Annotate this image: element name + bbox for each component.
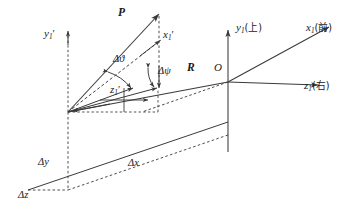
point-p-text: P xyxy=(118,6,125,18)
frame-unprimed-axes xyxy=(142,27,329,152)
point-p-label: P xyxy=(118,7,125,19)
axis-label-y1: y1(上) xyxy=(236,22,262,35)
axis-x1-prime-arrow xyxy=(140,41,160,57)
delta-x-text: Δx xyxy=(128,157,139,168)
origin-o-text: O xyxy=(214,61,222,73)
delta-z-label: Δz xyxy=(18,190,28,201)
angle-theta-label: Δϑ xyxy=(113,54,124,65)
vector-r-label: R xyxy=(187,62,195,74)
axis-y1-prime-mark: ′ xyxy=(53,28,55,39)
axis-x1-prime-mark: ′ xyxy=(172,29,174,40)
figure-canvas: P R O x1(前) y1(上) z1(右) x1′ y1′ z1′ Δϑ Δ… xyxy=(0,0,351,210)
delta-x-label: Δx xyxy=(128,158,139,169)
delta-x-dashed-line xyxy=(68,135,228,190)
angle-psi-label: Δψ xyxy=(158,66,171,77)
axis-label-z1: z1(右) xyxy=(304,80,329,93)
angle-psi-text: Δψ xyxy=(158,65,171,76)
axis-z1-negative-dashed xyxy=(142,82,228,112)
angle-psi-arc xyxy=(148,68,154,87)
axis-z1-prime-mark: ′ xyxy=(118,84,120,95)
axis-x1-annotation: (前) xyxy=(315,22,333,33)
axis-label-y1-prime: y1′ xyxy=(44,28,55,41)
vector-r-text: R xyxy=(187,61,195,73)
delta-construction-lines xyxy=(28,82,228,190)
angle-theta-text: Δϑ xyxy=(113,53,124,64)
delta-z-text: Δz xyxy=(18,189,28,200)
axis-z1-annotation: (右) xyxy=(312,80,330,91)
origin-o-label: O xyxy=(214,62,222,73)
axis-label-x1: x1(前) xyxy=(306,22,332,35)
delta-x-solid-line xyxy=(28,122,228,190)
delta-y-label: Δy xyxy=(38,157,49,168)
axis-label-x1-prime: x1′ xyxy=(163,29,174,42)
axis-label-z1-prime: z1′ xyxy=(110,84,120,97)
axis-y1-annotation: (上) xyxy=(245,22,263,33)
delta-y-text: Δy xyxy=(38,156,49,167)
